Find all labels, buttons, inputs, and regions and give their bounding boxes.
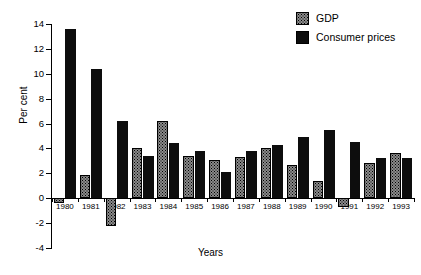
y-axis-title: Per cent bbox=[19, 75, 29, 135]
y-tick-label: 12 bbox=[18, 44, 44, 54]
bar-consumer-prices-1983 bbox=[143, 156, 154, 198]
consumer-prices-swatch-icon bbox=[296, 31, 309, 44]
bar-gdp-1981 bbox=[80, 175, 91, 199]
x-tick-label: 1986 bbox=[207, 203, 233, 211]
x-tick-label: 1992 bbox=[362, 203, 388, 211]
x-tick-label: 1983 bbox=[130, 203, 156, 211]
x-tick-label: 1987 bbox=[233, 203, 259, 211]
bar-chart: GDP Consumer prices 14121086420-2-4 1980… bbox=[0, 0, 421, 275]
bar-consumer-prices-1985 bbox=[195, 151, 206, 198]
y-tick-label: -2 bbox=[18, 218, 44, 228]
bar-gdp-1993 bbox=[390, 153, 401, 198]
legend-entry-consumer-prices: Consumer prices bbox=[296, 29, 395, 45]
legend-entry-gdp: GDP bbox=[296, 10, 395, 26]
bar-gdp-1988 bbox=[261, 148, 272, 198]
y-tick-label: 2 bbox=[18, 168, 44, 178]
x-tick-mark bbox=[414, 198, 415, 202]
x-tick-mark bbox=[362, 198, 363, 202]
x-axis-title: Years bbox=[0, 248, 421, 258]
y-tick-mark bbox=[46, 49, 52, 50]
x-tick-mark bbox=[181, 198, 182, 202]
x-tick-label: 1984 bbox=[155, 203, 181, 211]
bar-gdp-1985 bbox=[183, 156, 194, 198]
y-tick-label: 4 bbox=[18, 143, 44, 153]
bar-consumer-prices-1988 bbox=[272, 145, 283, 199]
x-tick-mark bbox=[259, 198, 260, 202]
bar-consumer-prices-1993 bbox=[402, 158, 413, 198]
gdp-swatch-icon bbox=[296, 12, 309, 25]
x-tick-label: 1990 bbox=[311, 203, 337, 211]
y-tick-label: 0 bbox=[18, 193, 44, 203]
y-tick-mark bbox=[46, 24, 52, 25]
y-tick-label: 14 bbox=[18, 19, 44, 29]
bar-consumer-prices-1990 bbox=[324, 130, 335, 198]
bar-consumer-prices-1982 bbox=[117, 121, 128, 198]
bar-consumer-prices-1986 bbox=[221, 172, 232, 198]
x-tick-mark bbox=[207, 198, 208, 202]
chart-legend: GDP Consumer prices bbox=[296, 10, 395, 48]
x-tick-mark bbox=[233, 198, 234, 202]
bar-consumer-prices-1981 bbox=[91, 69, 102, 198]
y-tick-mark bbox=[46, 223, 52, 224]
x-tick-mark bbox=[130, 198, 131, 202]
x-tick-mark bbox=[311, 198, 312, 202]
x-tick-label: 1989 bbox=[285, 203, 311, 211]
x-tick-label: 1993 bbox=[388, 203, 414, 211]
bar-gdp-1983 bbox=[132, 148, 143, 198]
x-tick-mark bbox=[78, 198, 79, 202]
bar-gdp-1989 bbox=[287, 165, 298, 199]
x-tick-mark bbox=[155, 198, 156, 202]
x-tick-label: 1980 bbox=[52, 203, 78, 211]
bar-gdp-1984 bbox=[157, 121, 168, 198]
bar-gdp-1980 bbox=[54, 198, 65, 203]
x-tick-mark bbox=[336, 198, 337, 202]
bar-consumer-prices-1987 bbox=[246, 151, 257, 198]
bar-gdp-1986 bbox=[209, 160, 220, 199]
bar-gdp-1987 bbox=[235, 157, 246, 198]
x-tick-label: 1981 bbox=[78, 203, 104, 211]
bar-consumer-prices-1980 bbox=[65, 29, 76, 198]
bar-gdp-1991 bbox=[338, 198, 349, 207]
bar-gdp-1990 bbox=[313, 181, 324, 198]
bar-consumer-prices-1984 bbox=[169, 143, 180, 198]
x-tick-mark bbox=[388, 198, 389, 202]
legend-label-consumer-prices: Consumer prices bbox=[316, 32, 395, 43]
bar-consumer-prices-1992 bbox=[376, 158, 387, 198]
x-tick-mark bbox=[285, 198, 286, 202]
y-tick-mark bbox=[46, 148, 52, 149]
legend-label-gdp: GDP bbox=[316, 13, 339, 24]
y-tick-mark bbox=[46, 173, 52, 174]
bar-gdp-1982 bbox=[106, 198, 117, 225]
bar-consumer-prices-1991 bbox=[350, 142, 361, 198]
y-axis-line bbox=[51, 24, 52, 249]
x-tick-label: 1988 bbox=[259, 203, 285, 211]
bar-consumer-prices-1989 bbox=[298, 137, 309, 198]
y-tick-mark bbox=[46, 99, 52, 100]
x-tick-label: 1985 bbox=[181, 203, 207, 211]
y-tick-mark bbox=[46, 124, 52, 125]
x-tick-mark bbox=[52, 198, 53, 202]
bar-gdp-1992 bbox=[364, 163, 375, 198]
y-tick-mark bbox=[46, 74, 52, 75]
